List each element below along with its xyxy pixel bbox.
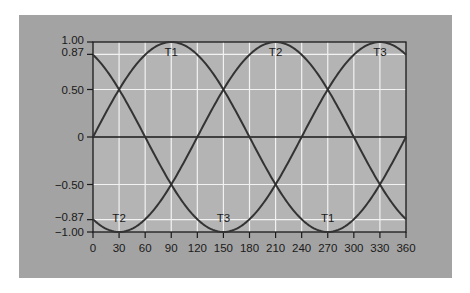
y-tick-label: −1.00	[55, 226, 84, 238]
curve-label: T3	[373, 46, 386, 58]
x-tick-label: 270	[318, 242, 337, 254]
x-tick-label: 210	[266, 242, 285, 254]
x-tick-label: 240	[292, 242, 311, 254]
x-tick-label: 0	[90, 242, 96, 254]
y-tick-label: 0	[78, 131, 84, 143]
sine-chart: 1.000.870.500−0.50−0.87−1.00 03060901201…	[0, 0, 470, 293]
curve-label: T1	[321, 212, 334, 224]
y-tick-label: 0.50	[62, 84, 84, 96]
curve-label: T2	[112, 212, 125, 224]
x-tick-label: 180	[240, 242, 259, 254]
x-tick-label: 360	[396, 242, 415, 254]
y-tick-label: −0.50	[55, 179, 84, 191]
y-axis-ticks: 1.000.870.500−0.50−0.87−1.00	[55, 34, 93, 238]
curve-label: T2	[269, 46, 282, 58]
curve-label: T3	[217, 212, 230, 224]
x-tick-label: 300	[344, 242, 363, 254]
x-tick-label: 30	[113, 242, 126, 254]
y-tick-label: −0.87	[55, 211, 84, 223]
y-tick-label: 0.87	[62, 46, 84, 58]
x-tick-label: 150	[214, 242, 233, 254]
x-tick-label: 330	[370, 242, 389, 254]
curve-label: T1	[165, 46, 178, 58]
x-tick-label: 90	[165, 242, 178, 254]
x-tick-label: 60	[139, 242, 152, 254]
x-axis-ticks: 0306090120150180210240270300330360	[90, 232, 416, 254]
y-tick-label: 1.00	[62, 34, 84, 46]
x-tick-label: 120	[188, 242, 207, 254]
